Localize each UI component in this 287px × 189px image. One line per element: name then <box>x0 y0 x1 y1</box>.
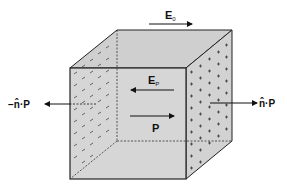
left-surface-charge-label: −n̂·P <box>8 98 30 110</box>
right-surface-charge-label: n̂·P <box>259 97 275 109</box>
polarization-label: P <box>152 122 159 134</box>
polarized-cube-diagram: E0 EP P −n̂·P n̂·P <box>0 0 287 189</box>
cube-front-face <box>70 68 186 179</box>
external-field-label: E0 <box>165 9 176 22</box>
